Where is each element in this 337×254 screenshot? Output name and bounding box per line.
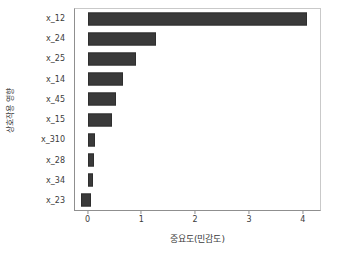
y-tick-label: x_23	[18, 191, 70, 211]
x-tick-mark	[195, 211, 196, 214]
plot-area	[74, 8, 321, 211]
bar-row	[75, 130, 320, 150]
bar	[88, 53, 136, 66]
y-axis-title-container: 상호작용 영향	[0, 60, 18, 160]
bar	[88, 173, 93, 186]
x-tick-label: 0	[85, 211, 90, 224]
x-tick-label: 1	[139, 211, 144, 224]
bar-row	[75, 9, 320, 29]
bar-chart-figure: 상호작용 영향 x_12 x_24 x_25 x_14 x_45 x_15 x_…	[0, 0, 337, 254]
bar-row	[75, 89, 320, 109]
bar-row	[75, 29, 320, 49]
bar-row	[75, 109, 320, 129]
x-tick-label: 3	[246, 211, 251, 224]
y-tick-label: x_12	[18, 8, 70, 28]
bar	[88, 13, 306, 26]
bar-row	[75, 150, 320, 170]
y-tick-label: x_45	[18, 89, 70, 109]
y-axis-tick-labels: x_12 x_24 x_25 x_14 x_45 x_15 x_310 x_28…	[18, 8, 70, 211]
bar-row	[75, 49, 320, 69]
y-tick-label: x_15	[18, 109, 70, 129]
bar-row	[75, 190, 320, 210]
bar	[88, 73, 123, 86]
bar-series	[75, 9, 320, 210]
y-tick-label: x_25	[18, 49, 70, 69]
y-tick-label: x_24	[18, 28, 70, 48]
bar-row	[75, 69, 320, 89]
bar	[81, 193, 91, 206]
x-tick-mark	[302, 211, 303, 214]
y-tick-label: x_14	[18, 69, 70, 89]
y-tick-label: x_34	[18, 170, 70, 190]
x-axis-tick-labels: 01234	[74, 211, 321, 227]
x-tick-label: 2	[193, 211, 198, 224]
x-tick-mark	[141, 211, 142, 214]
y-tick-label: x_28	[18, 150, 70, 170]
x-tick-mark	[87, 211, 88, 214]
x-tick-mark	[249, 211, 250, 214]
bar-row	[75, 170, 320, 190]
y-tick-label: x_310	[18, 130, 70, 150]
bar	[88, 133, 94, 146]
x-tick-label: 4	[300, 211, 305, 224]
bar	[88, 93, 115, 106]
x-axis-title: 중요도(민감도)	[74, 232, 321, 245]
bar	[88, 113, 112, 126]
y-axis-title: 상호작용 영향	[4, 88, 15, 133]
bar	[88, 153, 94, 166]
bar	[88, 33, 155, 46]
